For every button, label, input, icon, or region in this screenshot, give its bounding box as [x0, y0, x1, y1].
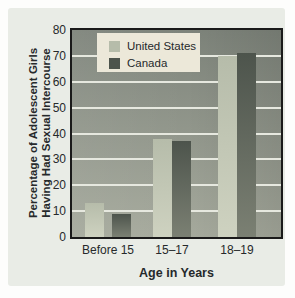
y-tick-60: 60 [20, 75, 66, 89]
legend-swatch-united-states-icon [109, 41, 120, 52]
chart-card: Percentage of Adolescent Girls Having Ha… [8, 8, 285, 286]
legend-swatch-canada-icon [109, 58, 120, 69]
y-tick-40: 40 [20, 127, 66, 141]
y-tick-30: 30 [20, 152, 66, 166]
x-category-label: 18–19 [192, 243, 282, 257]
bar-canada-18-19 [237, 53, 256, 237]
y-tick-20: 20 [20, 178, 66, 192]
y-tick-0: 0 [20, 230, 66, 244]
bar-canada-before-15 [112, 214, 131, 237]
y-tick-80: 80 [20, 23, 66, 37]
x-axis-title: Age in Years [72, 266, 281, 280]
bar-united-states-before-15 [85, 203, 104, 237]
bar-united-states-15-17 [153, 139, 172, 237]
y-tick-70: 70 [20, 49, 66, 63]
legend-item-united-states: United States [109, 40, 200, 52]
legend-label-united-states: United States [127, 40, 196, 52]
bar-canada-15-17 [172, 141, 191, 237]
bar-united-states-18-19 [218, 56, 237, 237]
y-tick-50: 50 [20, 101, 66, 115]
legend-item-canada: Canada [109, 57, 200, 69]
y-tick-10: 10 [20, 204, 66, 218]
figure-page: Percentage of Adolescent Girls Having Ha… [0, 0, 295, 298]
legend-label-canada: Canada [127, 57, 167, 69]
legend: United StatesCanada [97, 33, 200, 72]
plot-area: United StatesCanada [70, 28, 283, 239]
